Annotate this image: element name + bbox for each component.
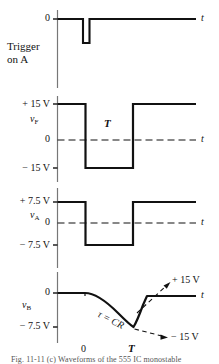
vb-arrow-down-path [135, 329, 163, 336]
vf-minus15-label: − 15 V [8, 163, 50, 173]
vb-arrow-up-head [164, 282, 171, 289]
vb-annotation-minus15: − 15 V [171, 332, 217, 342]
vb-xtick-label-0: 0 [81, 344, 86, 354]
vb-variable-label: vB [22, 300, 31, 310]
va-minus75-label: − 7.5 V [4, 240, 50, 250]
vf-variable-label: vF [30, 114, 38, 124]
trigger-zero-label: 0 [30, 13, 50, 23]
trigger-label-line2: on A [7, 53, 28, 65]
va-plus75-label: + 7.5 V [4, 196, 50, 206]
vf-waveform [58, 104, 197, 168]
vf-plus15-label: + 15 V [8, 99, 50, 109]
vb-t-axis-label: t [201, 290, 204, 300]
vf-var-sub: F [34, 118, 38, 126]
trigger-t-axis-label: t [201, 13, 204, 23]
trigger-on-a-label: Trigger on A [7, 40, 40, 65]
vb-xtick-label-T: T [128, 343, 135, 354]
vb-var-sub: B [26, 304, 31, 312]
vf-t-axis-label: t [201, 134, 204, 144]
figure-caption: Fig. 11-11 (c) Waveforms of the 555 IC m… [11, 355, 181, 364]
vb-minus75-label: − 7.5 V [4, 321, 50, 331]
vb-waveform [58, 293, 197, 327]
va-t-axis-label: t [201, 217, 204, 227]
vb-annotation-plus15: + 15 V [172, 275, 216, 285]
vf-zero-label: 0 [38, 134, 50, 144]
trigger-waveform [58, 19, 197, 43]
vb-zero-label: 0 [38, 287, 50, 297]
va-zero-label: 0 [38, 217, 50, 227]
trigger-label-line1: Trigger [7, 40, 40, 52]
vf-period-label: T [104, 118, 111, 129]
vb-arrow-down-head [161, 335, 169, 340]
